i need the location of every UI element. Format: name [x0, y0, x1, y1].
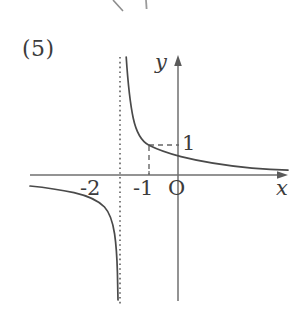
curve-left-branch	[30, 186, 118, 300]
x-tick-label-neg-one: -1	[133, 178, 153, 199]
curve-right-branch	[126, 57, 288, 170]
x-axis	[30, 171, 288, 179]
cropped-stroke-vertical	[146, 0, 147, 9]
x-tick-label-neg-two: -2	[80, 178, 100, 199]
cropped-stroke-diagonal	[113, 0, 123, 11]
guide-lines	[149, 145, 179, 175]
origin-label: O	[168, 178, 185, 199]
x-axis-label: x	[276, 178, 288, 199]
y-axis-arrowhead	[174, 55, 182, 66]
figure-page: (5) y x 1 O -1 -2	[0, 0, 300, 311]
y-tick-label-one: 1	[182, 133, 195, 154]
y-axis-label: y	[155, 52, 167, 73]
problem-number-label: (5)	[22, 38, 55, 60]
cropped-fragment-group	[113, 0, 147, 11]
